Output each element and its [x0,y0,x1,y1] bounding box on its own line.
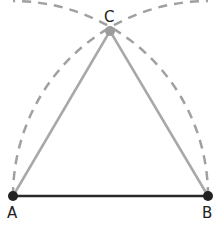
point-c [105,26,115,36]
label-a: A [7,204,18,222]
side-bc [110,31,208,196]
label-c: C [104,8,114,26]
label-b: B [202,204,212,222]
side-ac [13,31,110,196]
point-b [203,191,213,201]
point-a [8,191,18,201]
diagram-canvas: A B C [0,0,220,227]
